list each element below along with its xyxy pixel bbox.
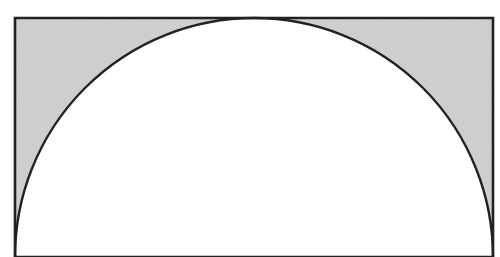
semicircle-in-rectangle-diagram [0,0,500,257]
